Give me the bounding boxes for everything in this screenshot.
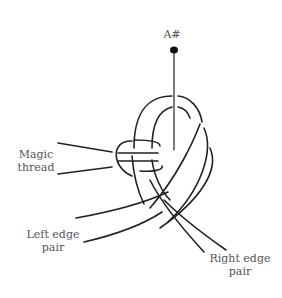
magic-thread bbox=[58, 140, 162, 176]
left-edge-label-line1: Left edge bbox=[22, 228, 84, 241]
right-edge-label-line2: pair bbox=[206, 265, 274, 278]
right-edge-label-line1: Right edge bbox=[206, 252, 274, 265]
pin-label: A# bbox=[163, 28, 180, 41]
magic-thread-label-line1: Magic bbox=[14, 148, 58, 161]
pin-label-text: A# bbox=[163, 28, 180, 41]
magic-thread-label-line2: thread bbox=[14, 161, 58, 174]
left-edge-pair-label: Left edge pair bbox=[22, 228, 84, 254]
magic-thread-label: Magic thread bbox=[14, 148, 58, 174]
pin-icon bbox=[170, 47, 178, 151]
left-edge-strand bbox=[132, 156, 144, 204]
left-edge-label-line2: pair bbox=[22, 241, 84, 254]
right-edge-pair-label: Right edge pair bbox=[206, 252, 274, 278]
